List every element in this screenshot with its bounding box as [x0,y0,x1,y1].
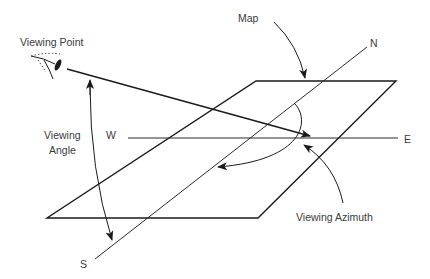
north-south-axis [95,47,367,259]
viewing-angle-label-line2: Angle [49,144,76,156]
viewing-geometry-diagram: Viewing Point Map N S E W Viewing Angle … [0,0,430,279]
north-label: N [370,37,378,49]
east-label: E [404,133,411,145]
south-label: S [80,258,87,270]
viewing-angle-label-line1: Viewing [44,129,81,141]
viewing-point-label: Viewing Point [20,36,83,48]
map-label: Map [238,12,258,24]
viewing-angle-arc [90,86,112,240]
eye-icon [31,53,63,79]
viewing-azimuth-label: Viewing Azimuth [296,211,373,223]
map-pointer-arrow [274,22,305,78]
west-label: W [106,129,116,141]
map-plane [47,81,396,218]
